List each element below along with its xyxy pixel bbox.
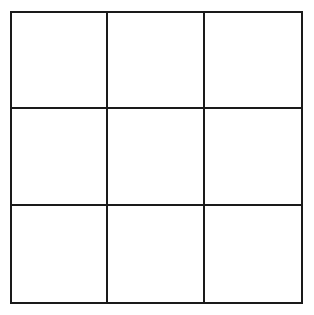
cell-2-1[interactable] xyxy=(12,109,108,205)
cell-3-2[interactable] xyxy=(108,206,204,302)
tic-tac-toe-board xyxy=(10,11,303,304)
cell-2-3[interactable] xyxy=(205,109,301,205)
cell-1-2[interactable] xyxy=(108,13,204,109)
cell-3-3[interactable] xyxy=(205,206,301,302)
cell-2-2[interactable] xyxy=(108,109,204,205)
cell-1-1[interactable] xyxy=(12,13,108,109)
cell-1-3[interactable] xyxy=(205,13,301,109)
cell-3-1[interactable] xyxy=(12,206,108,302)
